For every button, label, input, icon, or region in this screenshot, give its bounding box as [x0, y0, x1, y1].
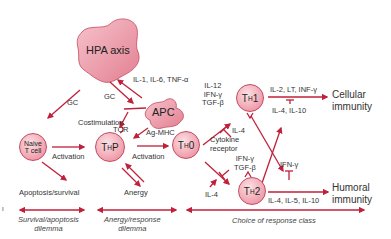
- th0-node: TH0: [172, 131, 200, 159]
- apoptosis-survival-label: Apoptosis/survival: [19, 189, 79, 198]
- gc-mid-label: GC: [104, 93, 115, 102]
- th2-suffix: 2: [255, 186, 261, 197]
- gc-left-label: GC: [67, 99, 78, 108]
- humoral-immunity-label: Humoral immunity: [332, 182, 372, 205]
- tcr-label: TCR: [113, 126, 128, 135]
- th2-node: TH2: [238, 177, 266, 205]
- immune-response-diagram: HPA axis APC Naive T cell THP TH0 TH1 TH…: [0, 0, 391, 239]
- activation-label-2: Activation: [132, 153, 165, 162]
- cytokine-receptor-label: Cytokine receptor: [210, 136, 239, 153]
- hpa-axis-label: HPA axis: [86, 44, 130, 56]
- th1-node: TH1: [236, 84, 264, 112]
- apc-label: APC: [152, 106, 175, 118]
- thp-suffix: P: [112, 142, 119, 153]
- th1-outputs-label: IL-2, LT, INF-γ: [270, 86, 317, 95]
- activation-label-1: Activation: [52, 153, 85, 162]
- choice-dilemma-label: Choice of response class: [232, 217, 316, 226]
- th0-suffix: 0: [189, 140, 195, 151]
- th2-inhibitors-label: IFN-γ TGF-β: [234, 155, 256, 172]
- il4-th2-label: IL-4: [205, 191, 218, 200]
- naive-t-cell-node: Naive T cell: [19, 133, 47, 161]
- thp-node: THP: [95, 132, 125, 162]
- cellular-immunity-label: Cellular immunity: [332, 89, 372, 112]
- th2-outputs-label: IL-4, IL-5, IL-10: [268, 197, 319, 206]
- margin-mark: I: [2, 206, 4, 213]
- th1-suffix: 1: [253, 93, 259, 104]
- anergy-dilemma-label: Anergy/response dilemma: [104, 216, 161, 233]
- ag-mhc-label: Ag-MHC: [146, 129, 175, 138]
- th1-inhibitors-label: IL-4, IL-10: [272, 107, 306, 116]
- il-cytokines-label: IL-1, IL-6, TNF-α: [133, 76, 188, 85]
- survival-dilemma-label: Survival/apoptosis dilemma: [18, 216, 79, 233]
- anergy-label: Anergy: [124, 189, 148, 198]
- ifn-gamma-th2-label: IFN-γ: [280, 161, 298, 170]
- th1-inducers-label: IL-12 IFN-γ TGF-β: [202, 82, 224, 108]
